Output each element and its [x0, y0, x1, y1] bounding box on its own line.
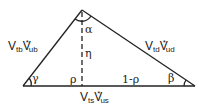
alpha-label: α: [85, 24, 92, 35]
one-minus-rho-label: 1-ρ: [122, 74, 139, 85]
beta-arc: [184, 80, 186, 86]
eta-label: η: [85, 48, 92, 59]
right-side-label: VtdV*ud: [145, 39, 175, 54]
gamma-label: γ: [32, 73, 39, 84]
rho-label: ρ: [70, 74, 76, 85]
gamma-arc: [29, 78, 31, 86]
beta-label: β: [168, 73, 174, 84]
base-side-label: VtsV*us: [80, 90, 109, 105]
left-side-label: VtbV*ub: [8, 39, 38, 54]
